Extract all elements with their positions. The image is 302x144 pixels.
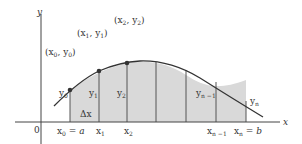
ordinate-y0: y0 [58,88,68,99]
trapezoid-diagram: y x 0 (x0, y0) (x1, y1) (x2, y2) y0 y1 y… [0,0,302,144]
abscissa-xn: xn = b [234,126,262,137]
abscissa-xn-1: xn −1 [207,126,227,137]
point-x0-y0 [68,88,73,93]
origin-label: 0 [34,125,40,135]
abscissa-x0: x0 = a [57,126,85,137]
point-label-2: (x2, y2) [114,15,145,26]
abscissa-x2: x2 [124,126,133,137]
delta-x-label: Δx [80,109,92,119]
abscissa-x1: x1 [96,126,105,137]
point-label-1: (x1, y1) [77,28,108,39]
point-x1-y1 [97,69,102,74]
x-axis-label: x [283,117,288,127]
ordinate-yn: yn [249,96,259,107]
y-axis-label: y [36,7,43,17]
point-x2-y2 [125,61,130,66]
point-label-0: (x0, y0) [45,47,76,58]
